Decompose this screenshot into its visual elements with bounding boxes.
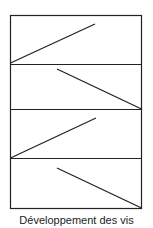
outer-frame — [11, 16, 142, 209]
development-diagram — [0, 0, 153, 228]
panel-2-slant-line — [57, 69, 142, 109]
panel-1-slant-line — [11, 24, 96, 63]
figure-caption: Développement des vis — [0, 214, 153, 226]
panel-3-slant-line — [11, 118, 97, 158]
panel-4-slant-line — [57, 168, 142, 208]
